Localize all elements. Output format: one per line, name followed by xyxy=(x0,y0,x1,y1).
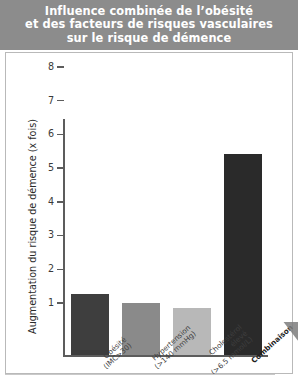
y-axis-tick xyxy=(57,201,64,202)
chart-title: Influence combinée de l’obésité et des f… xyxy=(19,5,279,46)
y-axis-tick xyxy=(57,66,64,67)
bars-layer xyxy=(64,119,268,355)
bar xyxy=(224,154,262,355)
figure-container: Influence combinée de l’obésité et des f… xyxy=(0,0,298,379)
chart-panel: Augmentation du risque de démence (x foi… xyxy=(5,52,293,374)
page-fold-corner xyxy=(276,322,298,352)
y-axis-tick-label: 5 xyxy=(36,163,54,173)
y-axis-tick-label: 3 xyxy=(36,230,54,240)
chart-title-banner: Influence combinée de l’obésité et des f… xyxy=(0,0,298,50)
y-axis-tick-label: 4 xyxy=(36,197,54,207)
y-axis-tick xyxy=(57,167,64,168)
y-axis-tick xyxy=(57,269,64,270)
y-axis-tick xyxy=(57,100,64,101)
y-axis-tick xyxy=(57,235,64,236)
y-axis-tick xyxy=(57,134,64,135)
y-axis-tick-label: 6 xyxy=(36,129,54,139)
y-axis-tick-label: 2 xyxy=(36,264,54,274)
y-axis-tick-label: 1 xyxy=(36,298,54,308)
page-bottom-edge xyxy=(5,374,275,375)
y-axis-tick-label: 8 xyxy=(36,62,54,72)
bar xyxy=(71,294,109,355)
x-axis-labels: Obésité (IMC>30)Hypertension (>140 mmHg)… xyxy=(6,357,294,379)
y-axis-tick-label: 7 xyxy=(36,96,54,106)
y-axis-tick xyxy=(57,302,64,303)
